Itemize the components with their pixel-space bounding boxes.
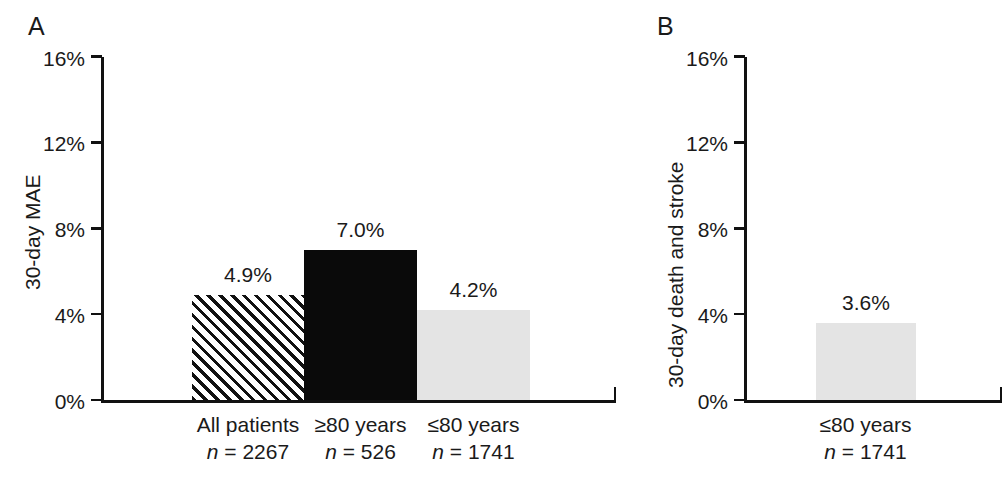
panel-a-category-label-1: ≥80 years [314, 413, 406, 436]
panel-b-x-axis-line [744, 400, 1002, 403]
panel-b: B 0% 4% 8% 12% 16% 30-day death and stro… [640, 0, 1006, 481]
panel-a-y-tick-4 [91, 55, 102, 58]
panel-a-x-axis-line [101, 400, 616, 403]
panel-a: A 0% 4% 8% 12% 16% 30-day MAE 4.9% 7.0% … [0, 0, 640, 481]
panel-b-y-tick-label-4: 16% [674, 48, 728, 69]
panel-a-bar-le80[interactable] [417, 310, 530, 400]
panel-b-y-tick-label-0: 0% [674, 391, 728, 412]
panel-a-bar-value-ge80: 7.0% [304, 219, 417, 240]
panel-a-y-tick-3 [91, 141, 102, 144]
panel-a-category-n-value-0: = 2267 [224, 440, 289, 463]
panel-a-bar-value-all-patients: 4.9% [192, 264, 304, 285]
panel-a-y-axis-title: 30-day MAE [22, 174, 43, 290]
panel-b-x-axis-end-cap [1000, 387, 1003, 402]
panel-b-y-tick-1 [734, 313, 745, 316]
panel-b-category-label-0: ≤80 years [819, 413, 911, 436]
panel-b-category-n-value-0: = 1741 [842, 440, 907, 463]
panel-b-y-tick-4 [734, 55, 745, 58]
panel-a-x-axis-end-cap [614, 387, 617, 402]
figure-root: A 0% 4% 8% 12% 16% 30-day MAE 4.9% 7.0% … [0, 0, 1006, 481]
panel-a-y-tick-1 [91, 313, 102, 316]
panel-b-bar-le80[interactable] [816, 323, 916, 400]
panel-b-letter: B [657, 14, 674, 39]
panel-a-bar-value-le80: 4.2% [417, 279, 530, 300]
panel-a-y-tick-label-1: 4% [31, 305, 85, 326]
panel-b-y-tick-3 [734, 141, 745, 144]
panel-a-category-label-0: All patients [197, 413, 300, 436]
panel-b-y-tick-2 [734, 227, 745, 230]
panel-a-y-tick-label-4: 16% [31, 48, 85, 69]
panel-a-letter: A [28, 14, 45, 39]
panel-a-y-tick-2 [91, 227, 102, 230]
panel-a-y-tick-label-3: 12% [31, 133, 85, 154]
panel-a-category-le80: ≤80 years n = 1741 [405, 412, 542, 466]
panel-b-y-tick-0 [734, 399, 745, 402]
panel-a-bar-all-patients[interactable] [192, 295, 304, 400]
panel-b-bar-value-le80: 3.6% [806, 292, 926, 313]
panel-a-category-n-value-1: = 526 [343, 440, 396, 463]
panel-b-y-tick-label-3: 12% [674, 133, 728, 154]
panel-a-category-n-2: n = 1741 [405, 439, 542, 466]
panel-b-category-n-0: n = 1741 [797, 439, 934, 466]
panel-a-category-label-2: ≤80 years [427, 413, 519, 436]
panel-a-category-n-value-2: = 1741 [450, 440, 515, 463]
panel-a-y-tick-0 [91, 399, 102, 402]
panel-b-y-axis-title: 30-day death and stroke [665, 162, 686, 389]
panel-a-y-tick-label-0: 0% [31, 391, 85, 412]
panel-b-category-le80: ≤80 years n = 1741 [797, 412, 934, 466]
panel-a-bar-ge80[interactable] [304, 250, 417, 400]
